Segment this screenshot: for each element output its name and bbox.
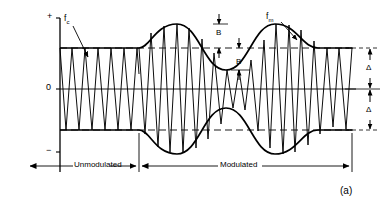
upper-envelope-curve	[60, 24, 352, 70]
modulating-frequency-subscript: m	[268, 17, 273, 23]
waveform-canvas	[0, 0, 389, 207]
delta-extension-lines	[345, 48, 380, 130]
am-waveform-figure: + 0 − fc fm B B Δ Δ Unmodulated Modulate…	[0, 0, 389, 207]
axis-label-positive: +	[47, 12, 52, 21]
axis-label-zero: 0	[46, 83, 51, 92]
region-label-modulated: Modulated	[220, 161, 257, 169]
delta-label-upper: Δ	[366, 64, 371, 72]
y-axis	[56, 18, 60, 172]
modulating-frequency-label: fm	[266, 12, 273, 23]
delta-label-lower: Δ	[366, 106, 371, 114]
figure-caption: (a)	[340, 186, 352, 196]
carrier-leader-line	[73, 26, 88, 57]
carrier-frequency-label: fc	[64, 14, 69, 25]
modulating-leader-line	[281, 22, 297, 40]
carrier-frequency-subscript: c	[66, 19, 69, 25]
region-label-unmodulated: Unmodulated	[74, 161, 122, 169]
axis-label-negative: −	[46, 146, 51, 155]
b-label-lower: B	[236, 58, 241, 66]
b-label-upper: B	[216, 29, 221, 37]
